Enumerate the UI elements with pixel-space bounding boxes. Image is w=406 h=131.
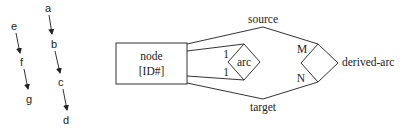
target-role-line [187, 82, 318, 99]
chain-node-f: f [20, 56, 24, 68]
chain-right: a b c d [45, 2, 69, 126]
chain-node-a: a [45, 2, 52, 14]
node-arc-line-bottom [187, 76, 244, 80]
target-role-label: target [250, 101, 277, 114]
chain-node-b: b [51, 38, 57, 50]
er-diagram: node [ID#] source target 1 1 arc M N der… [116, 13, 394, 114]
arrow-b-c [55, 51, 60, 73]
source-role-label: source [248, 13, 278, 25]
arc-cardinality-top: 1 [223, 48, 229, 60]
arc-cardinality-bottom: 1 [223, 66, 229, 78]
entity-key: [ID#] [139, 65, 165, 77]
node-arc-line-top [187, 44, 244, 51]
diagram-canvas: e f g a b c d node [ID#] source target 1… [0, 0, 406, 131]
arrow-e-f [16, 33, 20, 53]
arrow-c-d [63, 89, 67, 110]
source-role-line [187, 27, 318, 44]
entity-name: node [140, 50, 162, 62]
chain-node-d: d [63, 114, 69, 126]
chain-node-g: g [26, 93, 32, 105]
derived-cardinality-bottom: N [297, 72, 306, 84]
derived-arc-label: derived-arc [342, 56, 394, 68]
chain-node-e: e [11, 20, 17, 32]
derived-cardinality-top: M [297, 43, 307, 55]
chain-left: e f g [11, 20, 32, 105]
arrow-a-b [49, 15, 52, 34]
arc-label: arc [237, 56, 251, 68]
chain-node-c: c [58, 76, 64, 88]
arrow-f-g [24, 69, 28, 89]
